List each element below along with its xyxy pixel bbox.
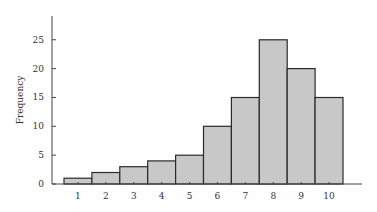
y-tick-label: 0 [38,179,44,189]
bar-10 [315,98,343,185]
bar-9 [287,69,315,184]
x-tick-label: 8 [270,191,276,201]
bar-3 [120,167,148,184]
y-tick-label: 20 [33,64,45,74]
bars [64,40,343,184]
x-tick-label: 1 [75,191,81,201]
y-axis-title: Frequency [15,75,25,125]
y-tick-label: 15 [33,92,45,102]
x-tick-label: 9 [298,191,304,201]
x-tick-label: 6 [215,191,221,201]
histogram-chart: 0510152025 12345678910 Frequency [0,0,377,212]
x-ticks: 12345678910 [75,182,335,201]
bar-5 [176,155,204,184]
x-tick-label: 5 [187,191,193,201]
x-tick-label: 10 [323,191,335,201]
bar-7 [231,98,259,185]
y-tick-label: 5 [38,150,44,160]
x-tick-label: 4 [159,191,165,201]
x-tick-label: 2 [103,191,109,201]
x-tick-label: 3 [131,191,137,201]
bar-8 [259,40,287,184]
bar-6 [204,126,232,184]
x-tick-label: 7 [242,191,248,201]
y-tick-label: 10 [33,121,45,131]
y-tick-label: 25 [33,35,45,45]
bar-4 [148,161,176,184]
